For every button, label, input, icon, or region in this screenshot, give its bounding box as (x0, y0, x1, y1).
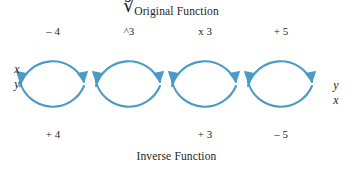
output-variables: y x (327, 78, 345, 108)
inverse-operation-2: ∛ (99, 0, 159, 15)
function-inverse-diagram: Original Function – 4 ^3 x 3 + 5 (0, 0, 353, 170)
forward-operation-4: + 5 (251, 25, 311, 37)
inverse-operation-1: + 4 (23, 128, 83, 140)
input-variable-top: x (8, 62, 26, 77)
forward-operation-2: ^3 (99, 25, 159, 37)
input-variable-bottom: y (8, 77, 26, 92)
forward-operation-3: x 3 (175, 25, 235, 37)
loop-step-1 (17, 61, 88, 106)
inverse-operation-3: + 3 (175, 128, 235, 140)
output-variable-bottom: x (327, 93, 345, 108)
forward-operation-1: – 4 (23, 25, 83, 37)
output-variable-top: y (327, 78, 345, 93)
loop-step-4 (245, 61, 316, 106)
inverse-operation-4: – 5 (251, 128, 311, 140)
loop-step-2 (93, 61, 164, 106)
inverse-function-caption: Inverse Function (0, 150, 353, 162)
loop-step-3 (169, 61, 240, 106)
input-variables: x y (8, 62, 26, 92)
